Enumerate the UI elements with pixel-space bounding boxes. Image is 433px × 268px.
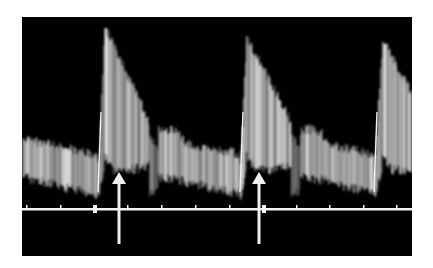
baseline-tick (60, 205, 62, 209)
baseline-tick (329, 205, 331, 209)
baseline-marker (93, 205, 97, 213)
baseline-tick (161, 205, 163, 209)
baseline-tick (229, 205, 231, 209)
baseline-marker (262, 205, 266, 213)
baseline-tick (396, 205, 398, 209)
baseline (22, 208, 412, 211)
doppler-spectrum-panel (22, 17, 412, 256)
baseline-tick (26, 205, 28, 209)
baseline-tick (363, 205, 365, 209)
baseline-tick (195, 205, 197, 209)
baseline-tick (296, 205, 298, 209)
spectral-waveform (22, 17, 412, 256)
baseline-tick (127, 205, 129, 209)
